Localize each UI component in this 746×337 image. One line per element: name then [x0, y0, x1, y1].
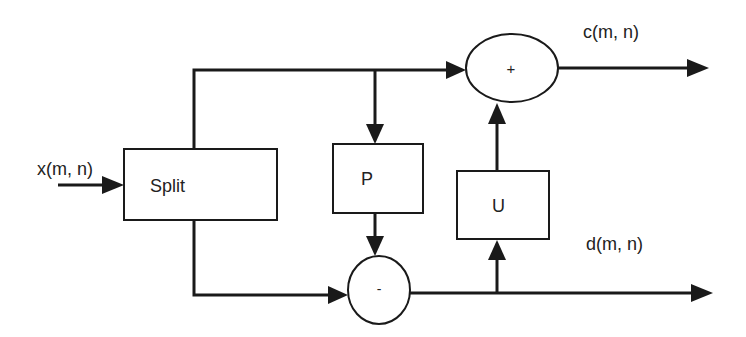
predict-block [333, 144, 423, 213]
detail-output-arrow [410, 284, 713, 302]
update-input-arrow [488, 240, 506, 293]
lifting-diagram: x(m, n) Split P - d(m, n) U [0, 0, 746, 337]
predict-input-arrow [366, 70, 384, 144]
coarse-output-label: c(m, n) [583, 22, 639, 42]
update-label: U [492, 196, 505, 216]
predict-output-arrow [366, 213, 384, 256]
adder-symbol: + [507, 60, 516, 77]
odd-branch-line [194, 220, 348, 304]
split-label: Split [150, 176, 185, 196]
predict-label: P [361, 169, 373, 189]
coarse-output-arrow [558, 59, 709, 77]
subtractor-symbol: - [377, 281, 382, 297]
detail-output-label: d(m, n) [586, 234, 643, 254]
split-block [124, 149, 277, 220]
input-label: x(m, n) [37, 159, 93, 179]
even-branch-line [194, 61, 466, 149]
update-output-arrow [488, 103, 506, 171]
